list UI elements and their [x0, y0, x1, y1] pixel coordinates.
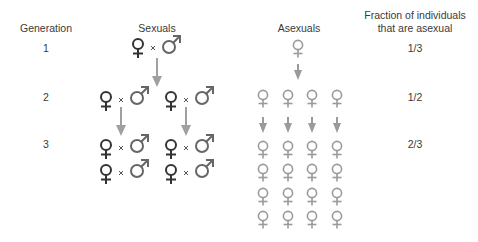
- female-icon: [101, 165, 111, 184]
- arrow-down-icon: [259, 117, 267, 133]
- male-icon: [131, 135, 148, 152]
- cross-icon: [119, 146, 123, 150]
- diagram-graphics: [0, 0, 478, 242]
- male-icon: [196, 160, 213, 177]
- male-icon: [196, 135, 213, 152]
- female-icon: [101, 92, 111, 111]
- male-icon: [131, 87, 148, 104]
- asexual-female-icon: [258, 90, 267, 107]
- cross-icon: [184, 146, 188, 150]
- gen2-sexual-pair-1: [101, 87, 148, 111]
- male-icon: [163, 36, 180, 53]
- arrow-down-icon: [294, 64, 302, 80]
- cross-icon: [184, 98, 188, 102]
- asexual-female-icon: [307, 90, 316, 107]
- female-icon: [166, 165, 176, 184]
- cross-icon: [119, 98, 123, 102]
- asexual-female-icon: [283, 90, 292, 107]
- asexual-female-icon: [332, 90, 341, 107]
- male-icon: [131, 160, 148, 177]
- female-icon: [101, 140, 111, 159]
- female-icon: [166, 92, 176, 111]
- arrow-down-icon: [284, 117, 292, 133]
- female-icon: [133, 39, 143, 58]
- gen3-sexual-pairs: [101, 135, 213, 184]
- gen1-sexual-pair: [133, 36, 180, 58]
- arrow-down-icon: [116, 107, 126, 136]
- asexual-female-icon: [293, 40, 302, 57]
- female-icon: [166, 140, 176, 159]
- asexual-gen3: [258, 141, 341, 228]
- male-icon: [196, 87, 213, 104]
- arrow-down-icon: [308, 117, 316, 133]
- asexual-gen2: [258, 90, 341, 133]
- arrow-down-icon: [333, 117, 341, 133]
- asexual-gen1: [293, 40, 302, 80]
- cross-icon: [119, 171, 123, 175]
- arrow-down-icon: [152, 58, 162, 87]
- gen2-sexual-pair-2: [166, 87, 213, 111]
- cross-icon: [151, 46, 155, 50]
- arrow-down-icon: [181, 107, 191, 136]
- cross-icon: [184, 171, 188, 175]
